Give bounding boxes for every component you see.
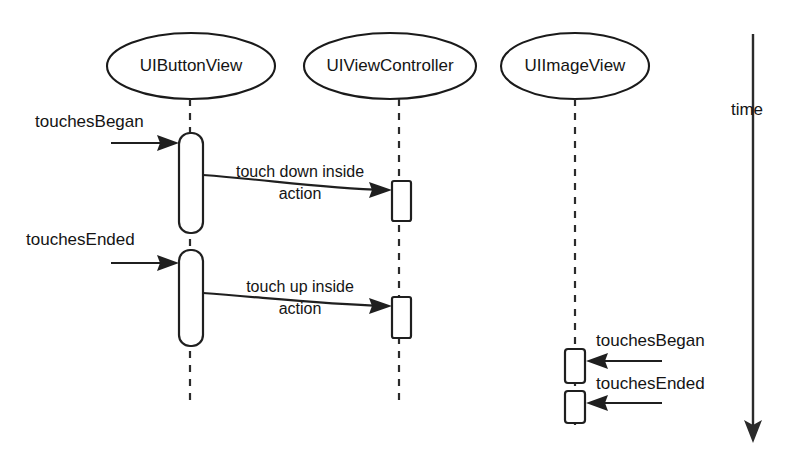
- activation-bar-uiimageview-1[interactable]: [565, 349, 585, 383]
- message-touch-up-inside-action[interactable]: touch up inside action: [203, 278, 392, 317]
- sequence-diagram-canvas: UIButtonView UIViewController UIImageVie…: [0, 0, 787, 455]
- message-touches-ended-image[interactable]: touchesEnded: [586, 374, 705, 411]
- activation-bar-uiimageview-2[interactable]: [565, 391, 585, 423]
- message-label-touches-began-image: touchesBegan: [596, 331, 705, 350]
- message-arrowhead-touches-began-button: [157, 135, 179, 151]
- message-label-touches-ended-image: touchesEnded: [596, 374, 705, 393]
- message-arrowhead-touch-up-inside-action: [369, 298, 392, 314]
- activation-bar-uibuttonview-1[interactable]: [179, 133, 203, 233]
- message-label-touch-down-inside-action-line2: action: [279, 185, 322, 202]
- activation-bar-uibuttonview-2[interactable]: [179, 250, 203, 346]
- lifeline-uiviewcontroller: UIViewController: [304, 33, 476, 406]
- time-axis-label: time: [731, 100, 763, 119]
- time-axis: time: [731, 34, 763, 443]
- message-arrowhead-touches-began-image: [586, 353, 608, 369]
- message-arrowhead-touches-ended-button: [157, 255, 179, 271]
- lifeline-label-uiimageview: UIImageView: [525, 56, 627, 75]
- sequence-diagram-svg: UIButtonView UIViewController UIImageVie…: [0, 0, 787, 455]
- message-label-touches-began-button: touchesBegan: [35, 112, 144, 131]
- activation-bar-uiviewcontroller-1[interactable]: [392, 181, 411, 221]
- message-touches-began-button[interactable]: touchesBegan: [35, 112, 179, 151]
- message-arrowhead-touch-down-inside-action: [369, 182, 392, 198]
- lifeline-label-uibuttonview: UIButtonView: [140, 56, 243, 75]
- lifeline-label-uiviewcontroller: UIViewController: [326, 56, 454, 75]
- message-label-touches-ended-button: touchesEnded: [26, 230, 135, 249]
- activation-bar-uiviewcontroller-2[interactable]: [392, 297, 411, 338]
- message-label-touch-down-inside-action-line1: touch down inside: [236, 163, 364, 180]
- message-touches-ended-button[interactable]: touchesEnded: [26, 230, 179, 271]
- message-arrowhead-touches-ended-image: [586, 395, 608, 411]
- lifeline-uibuttonview: UIButtonView: [107, 33, 275, 406]
- message-label-touch-up-inside-action-line1: touch up inside: [246, 278, 354, 295]
- message-touches-began-image[interactable]: touchesBegan: [586, 331, 705, 369]
- lifeline-uiimageview: UIImageView: [501, 33, 649, 425]
- message-touch-down-inside-action[interactable]: touch down inside action: [203, 163, 392, 202]
